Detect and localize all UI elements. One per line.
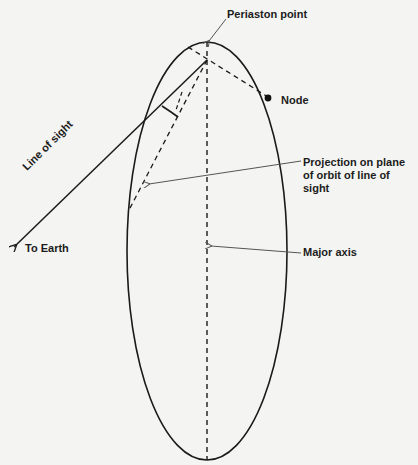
node-label: Node	[281, 94, 309, 107]
projection-leader	[149, 161, 301, 184]
node-marker	[265, 95, 272, 102]
periaston-label: Periaston point	[227, 8, 307, 21]
major-axis-label: Major axis	[303, 246, 357, 259]
diagram-page: Periaston point Node Projection on plane…	[0, 0, 418, 465]
focus-to-node-line	[188, 47, 268, 97]
to-earth-label: To Earth	[25, 242, 69, 255]
orbit-diagram	[0, 0, 418, 465]
periaston-leader	[209, 19, 226, 41]
projection-perpendicular-segment	[176, 92, 182, 110]
right-angle-marker	[162, 106, 178, 117]
projection-label: Projection on plane of orbit of line of …	[303, 156, 418, 195]
